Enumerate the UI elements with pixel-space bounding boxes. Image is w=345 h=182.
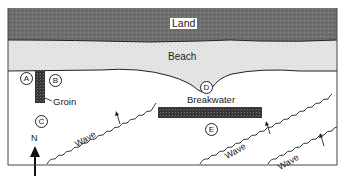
wave-line-1 xyxy=(47,103,156,164)
north-label: N xyxy=(31,134,38,143)
groin xyxy=(35,70,45,103)
coastal-diagram: Land Beach Groin Breakwater A B C D E N … xyxy=(0,0,345,182)
groin-label: Groin xyxy=(53,97,76,107)
point-b-marker: B xyxy=(49,74,62,87)
wave-direction-arrow-1 xyxy=(115,111,120,124)
point-e-marker: E xyxy=(205,123,218,136)
breakwater xyxy=(158,107,262,118)
point-a-marker: A xyxy=(20,72,33,85)
groin-leader-line xyxy=(45,98,52,101)
beach-label: Beach xyxy=(168,52,196,62)
point-d-marker: D xyxy=(200,81,213,94)
wave-line-3 xyxy=(268,127,337,164)
point-c-marker: C xyxy=(35,115,48,128)
north-arrow-icon xyxy=(30,146,40,176)
land-label: Land xyxy=(170,18,197,29)
breakwater-label: Breakwater xyxy=(187,95,235,105)
